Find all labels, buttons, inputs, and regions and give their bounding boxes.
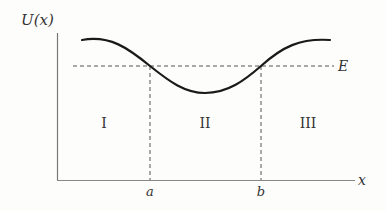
region-label-3: III bbox=[300, 115, 317, 131]
potential-energy-diagram: U(x) x E a b I II III bbox=[0, 0, 386, 211]
y-axis-label: U(x) bbox=[21, 11, 54, 29]
turning-point-b-label: b bbox=[257, 184, 265, 199]
region-label-1: I bbox=[101, 115, 107, 131]
energy-label: E bbox=[337, 58, 348, 74]
x-axis-label: x bbox=[358, 172, 366, 188]
turning-point-a-label: a bbox=[146, 184, 154, 199]
region-label-2: II bbox=[199, 115, 210, 131]
